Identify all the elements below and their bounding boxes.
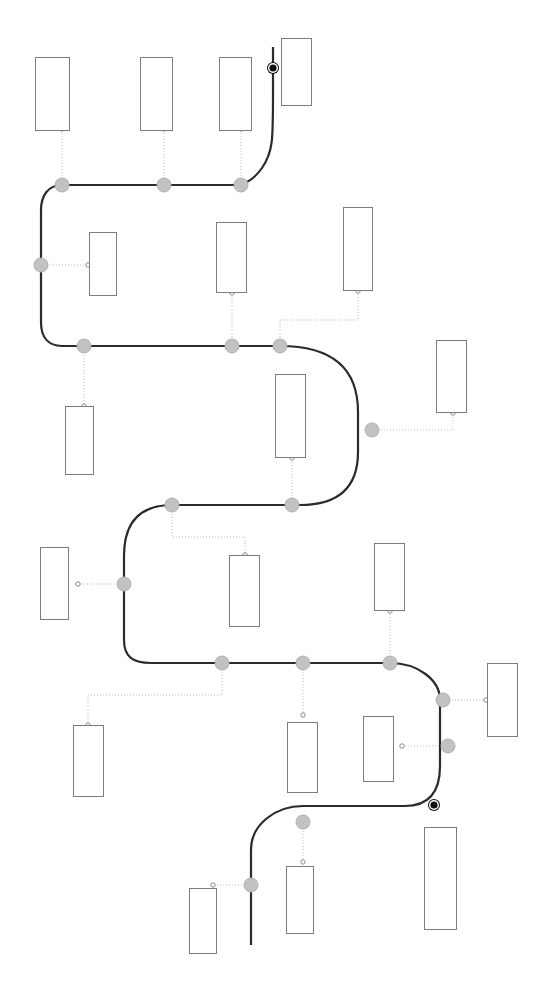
label-box-2-text xyxy=(141,58,172,130)
label-box-17[interactable] xyxy=(487,663,518,737)
label-box-8[interactable] xyxy=(65,406,94,475)
label-box-13[interactable] xyxy=(374,543,405,611)
label-box-7[interactable] xyxy=(343,207,373,291)
leader-16-endpoint xyxy=(400,744,404,748)
label-box-11[interactable] xyxy=(40,547,69,620)
label-box-15-text xyxy=(288,723,317,792)
label-box-6-text xyxy=(217,223,246,292)
label-box-6[interactable] xyxy=(216,222,247,293)
leader-10 xyxy=(172,505,245,553)
label-box-10[interactable] xyxy=(275,374,306,458)
milestone-node-12[interactable] xyxy=(215,656,229,670)
label-box-19-text xyxy=(287,867,313,933)
label-box-16[interactable] xyxy=(363,716,394,782)
diagram-svg xyxy=(0,0,545,981)
milestone-node-14[interactable] xyxy=(383,656,397,670)
milestone-node-13[interactable] xyxy=(296,656,310,670)
label-box-4-text xyxy=(282,39,311,105)
label-box-20-text xyxy=(190,889,216,953)
diagram-canvas xyxy=(0,0,545,981)
label-box-5-text xyxy=(90,233,116,295)
milestone-node-16[interactable] xyxy=(441,739,455,753)
milestone-node-9[interactable] xyxy=(285,498,299,512)
label-box-3-text xyxy=(220,58,251,130)
milestone-node-17[interactable] xyxy=(296,815,310,829)
label-box-9-text xyxy=(437,341,466,412)
label-box-19[interactable] xyxy=(286,866,314,934)
milestone-node-5[interactable] xyxy=(77,339,91,353)
leader-13-endpoint xyxy=(301,713,305,717)
label-box-20[interactable] xyxy=(189,888,217,954)
label-box-16-text xyxy=(364,717,393,781)
milestone-node-6[interactable] xyxy=(225,339,239,353)
label-box-12[interactable] xyxy=(229,555,260,627)
label-box-12-text xyxy=(230,556,259,626)
milestone-node-11[interactable] xyxy=(117,577,131,591)
leader-11-endpoint xyxy=(76,582,80,586)
label-box-1-text xyxy=(36,58,69,130)
label-box-11-text xyxy=(41,548,68,619)
leader-17-endpoint xyxy=(301,860,305,864)
milestone-node-10[interactable] xyxy=(165,498,179,512)
milestone-node-18[interactable] xyxy=(244,878,258,892)
label-box-13-text xyxy=(375,544,404,610)
milestone-node-15[interactable] xyxy=(436,693,450,707)
leader-18-endpoint xyxy=(211,883,215,887)
milestone-node-8[interactable] xyxy=(365,423,379,437)
label-box-18[interactable] xyxy=(424,827,457,930)
label-box-14[interactable] xyxy=(73,725,104,797)
label-box-7-text xyxy=(344,208,372,290)
milestone-node-4[interactable] xyxy=(34,258,48,272)
label-box-3[interactable] xyxy=(219,57,252,131)
leader-6 xyxy=(280,293,358,346)
milestone-node-3[interactable] xyxy=(234,178,248,192)
start-terminal[interactable] xyxy=(270,65,276,71)
label-box-2[interactable] xyxy=(140,57,173,131)
label-box-1[interactable] xyxy=(35,57,70,131)
label-box-17-text xyxy=(488,664,517,736)
label-box-8-text xyxy=(66,407,93,474)
label-box-5[interactable] xyxy=(89,232,117,296)
label-box-9[interactable] xyxy=(436,340,467,413)
label-box-4[interactable] xyxy=(281,38,312,106)
label-box-14-text xyxy=(74,726,103,796)
milestone-node-1[interactable] xyxy=(55,178,69,192)
milestone-node-2[interactable] xyxy=(157,178,171,192)
label-box-10-text xyxy=(276,375,305,457)
end-terminal[interactable] xyxy=(431,802,437,808)
label-box-18-text xyxy=(425,828,456,929)
milestone-node-7[interactable] xyxy=(273,339,287,353)
label-box-15[interactable] xyxy=(287,722,318,793)
leader-12 xyxy=(88,663,222,723)
leader-8 xyxy=(372,415,453,430)
